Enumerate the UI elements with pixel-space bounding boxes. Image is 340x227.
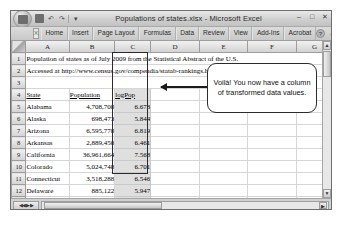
grid-cell[interactable]: 7.568 [115,149,151,161]
grid-cell[interactable] [151,113,200,125]
grid-cell[interactable]: 36,961,664 [69,149,114,161]
sheet-tab-nav-buttons[interactable]: ◀◀ ▶▶ [13,201,39,210]
row-header[interactable]: 1 [12,53,26,65]
chevron-down-icon[interactable]: ▾ [71,14,80,23]
grid-cell[interactable] [151,125,200,137]
grid-cell[interactable] [199,161,248,173]
column-header-e[interactable]: E [199,41,248,53]
workbook-minimize-button[interactable]: – [329,30,332,37]
grid-cell[interactable] [151,101,200,113]
tab-insert[interactable]: Insert [68,27,94,40]
row-header[interactable]: 3 [12,77,26,89]
row-header[interactable]: 11 [12,173,26,185]
grid-cell[interactable]: Population [69,89,114,101]
tab-add-ins[interactable]: Add-Ins [252,27,284,40]
grid-cell[interactable]: Alaska [26,113,69,125]
grid-cell[interactable] [151,137,200,149]
grid-cell[interactable]: logPop [115,89,151,101]
column-header-c[interactable]: C [115,41,151,53]
row-header[interactable]: 4 [12,89,26,101]
grid-cell[interactable] [199,113,248,125]
tab-view[interactable]: View [229,27,252,40]
vertical-scroll-thumb[interactable] [323,51,331,77]
grid-cell[interactable] [248,113,297,125]
grid-cell[interactable]: 6.819 [115,125,151,137]
grid-cell[interactable]: 698,473 [69,113,114,125]
grid-cell[interactable] [248,149,297,161]
close-button[interactable]: ✕ [321,13,329,21]
grid-cell[interactable]: California [26,149,69,161]
row-header[interactable]: 12 [12,185,26,197]
row-header[interactable]: 8 [12,137,26,149]
grid-cell[interactable] [151,161,200,173]
row-header[interactable]: 6 [12,113,26,125]
grid-cell[interactable]: Arkansas [26,137,69,149]
grid-cell[interactable]: Connecticut [26,173,69,185]
minimize-button[interactable]: – [295,13,303,21]
redo-icon[interactable]: ↷ [57,14,66,23]
grid-cell[interactable]: 2,889,450 [69,137,114,149]
grid-cell[interactable] [199,185,248,197]
grid-cell[interactable]: State [26,89,69,101]
grid-cell[interactable]: 6.461 [115,137,151,149]
column-header-d[interactable]: D [151,41,200,53]
tab-acrobat[interactable]: Acrobat [284,27,316,40]
column-header-b[interactable]: B [69,41,114,53]
callout-text: Voilà! You now have a column of transfor… [213,78,311,99]
grid-cell[interactable]: 5.947 [115,185,151,197]
grid-cell[interactable] [199,137,248,149]
grid-cell[interactable] [151,173,200,185]
column-header-a[interactable]: A [26,41,69,53]
column-header-row: A B C D E F G [12,41,332,53]
grid-cell[interactable] [248,137,297,149]
grid-cell[interactable]: 3,518,288 [69,173,114,185]
grid-cell[interactable]: Delaware [26,185,69,197]
scroll-right-button[interactable]: ▶ [319,202,327,209]
grid-cell[interactable]: Alabama [26,101,69,113]
horizontal-scrollbar[interactable]: ▶ [41,201,329,210]
grid-cell[interactable] [151,89,200,101]
grid-cell[interactable]: 5.844 [115,113,151,125]
row-header[interactable]: 7 [12,125,26,137]
row-header[interactable]: 2 [12,65,26,77]
grid-cell[interactable]: 6,595,778 [69,125,114,137]
worksheet-area[interactable]: A B C D E F G 1Population of states as o… [11,41,331,198]
column-header-f[interactable]: F [248,41,297,53]
select-all-corner[interactable] [12,41,26,53]
save-icon[interactable] [35,14,44,23]
scroll-down-button[interactable]: ▼ [323,189,331,198]
row-header[interactable]: 9 [12,149,26,161]
grid-cell[interactable]: 6.701 [115,161,151,173]
help-icon[interactable]: ? [316,29,325,38]
horizontal-scroll-thumb[interactable] [44,202,162,209]
grid-cell[interactable]: 885,122 [69,185,114,197]
grid-cell[interactable]: 4,708,708 [69,101,114,113]
grid-cell[interactable]: 5,024,748 [69,161,114,173]
undo-icon[interactable]: ↶ [46,14,55,23]
maximize-button[interactable]: □ [308,13,316,21]
excel-logo-icon: X [33,28,39,39]
vertical-scrollbar[interactable]: ▲ ▼ [322,41,331,198]
grid-cell[interactable] [151,149,200,161]
tab-home[interactable]: Home [41,27,68,40]
grid-cell[interactable] [199,125,248,137]
scroll-up-button[interactable]: ▲ [323,41,331,50]
tab-page-layout[interactable]: Page Layout [93,27,139,40]
grid-cell[interactable] [151,185,200,197]
grid-cell[interactable] [199,149,248,161]
office-button-icon[interactable] [13,10,32,28]
grid-cell[interactable]: Arizona [26,125,69,137]
tab-formulas[interactable]: Formulas [139,27,175,40]
grid-cell[interactable] [248,125,297,137]
grid-cell[interactable] [248,185,297,197]
grid-cell[interactable] [199,173,248,185]
grid-cell[interactable]: 6.673 [115,101,151,113]
grid-cell[interactable]: 6.546 [115,173,151,185]
tab-data[interactable]: Data [176,27,199,40]
grid-cell[interactable] [248,161,297,173]
row-header[interactable]: 5 [12,101,26,113]
grid-cell[interactable] [248,173,297,185]
row-header[interactable]: 10 [12,161,26,173]
grid-cell[interactable]: Colorado [26,161,69,173]
tab-review[interactable]: Review [199,27,230,40]
